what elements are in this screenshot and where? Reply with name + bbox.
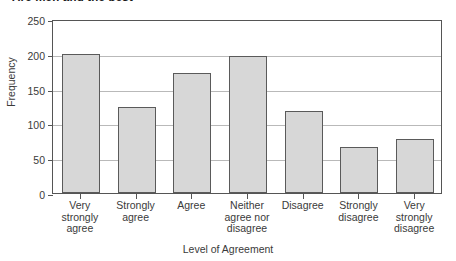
x-axis-category-label: Neither agree nor disagree	[219, 200, 275, 235]
x-axis-category-label: Very strongly agree	[52, 200, 108, 235]
bar	[173, 73, 211, 193]
y-axis-tick-label: 200	[27, 50, 45, 62]
y-axis-tick-label: 0	[39, 189, 45, 201]
bar	[285, 111, 323, 193]
x-axis-category-label: Strongly agree	[108, 200, 164, 223]
y-axis-tick-label: 150	[27, 85, 45, 97]
bar	[229, 56, 267, 193]
x-axis-category-label: Strongly disagree	[331, 200, 387, 223]
bar	[62, 54, 100, 193]
y-axis-tick-label: 250	[27, 15, 45, 27]
chart-title: Are men and the best	[12, 0, 232, 3]
x-axis-category-label: Agree	[163, 200, 219, 212]
bar	[396, 139, 434, 193]
x-axis-category-label: Very strongly disagree	[386, 200, 442, 235]
y-axis-title: Frequency	[5, 57, 17, 107]
y-axis-tick-label: 50	[33, 154, 45, 166]
x-axis-title: Level of Agreement	[0, 243, 456, 255]
x-axis-category-label: Disagree	[275, 200, 331, 212]
y-axis-tick	[48, 195, 53, 196]
bar	[340, 147, 378, 193]
y-axis-tick-label: 100	[27, 119, 45, 131]
plot-area: 050100150200250	[52, 20, 442, 194]
bar	[118, 107, 156, 193]
bars-layer	[53, 21, 441, 193]
